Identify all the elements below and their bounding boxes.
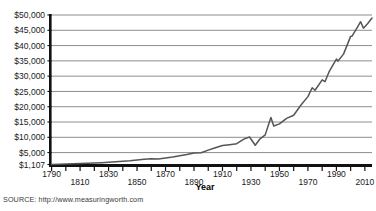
y-tick-label: $15,000: [14, 117, 45, 127]
x-tick-label: 1910: [213, 169, 232, 179]
y-tick-label: $5,000: [19, 148, 45, 158]
chart-figure: Real GDP per capita (2010 dollars) $1,10…: [0, 0, 376, 211]
x-axis-line: [49, 164, 372, 167]
clipped-chart-title: Real GDP per capita (2010 dollars): [0, 0, 376, 7]
x-tick-label: 1870: [156, 169, 175, 179]
x-tick-label: 1830: [99, 169, 118, 179]
x-tick-label: 2010: [355, 177, 374, 187]
y-tick-label: $10,000: [14, 132, 45, 142]
y-axis-line: [49, 14, 52, 166]
x-axis-title: Year: [195, 182, 215, 192]
y-tick-label: $20,000: [14, 102, 45, 112]
y-tick-label: $30,000: [14, 71, 45, 81]
x-tick-label: 1850: [128, 177, 147, 187]
x-tick-label: 1790: [42, 169, 61, 179]
x-tick-label: 1990: [327, 169, 346, 179]
y-tick-label: $40,000: [14, 41, 45, 51]
y-tick-label: $25,000: [14, 87, 45, 97]
y-tick-label: $35,000: [14, 56, 45, 66]
y-tick-label: $50,000: [14, 10, 45, 20]
x-tick-label: 1930: [241, 177, 260, 187]
gdp-per-capita-line-chart: $1,107$5,000$10,000$15,000$20,000$25,000…: [0, 0, 376, 211]
x-tick-label: 1810: [71, 177, 90, 187]
x-tick-label: 1970: [298, 177, 317, 187]
source-note: SOURCE: http://www.measuringworth.com: [3, 195, 143, 204]
y-tick-label: $45,000: [14, 25, 45, 35]
x-tick-label: 1950: [270, 169, 289, 179]
